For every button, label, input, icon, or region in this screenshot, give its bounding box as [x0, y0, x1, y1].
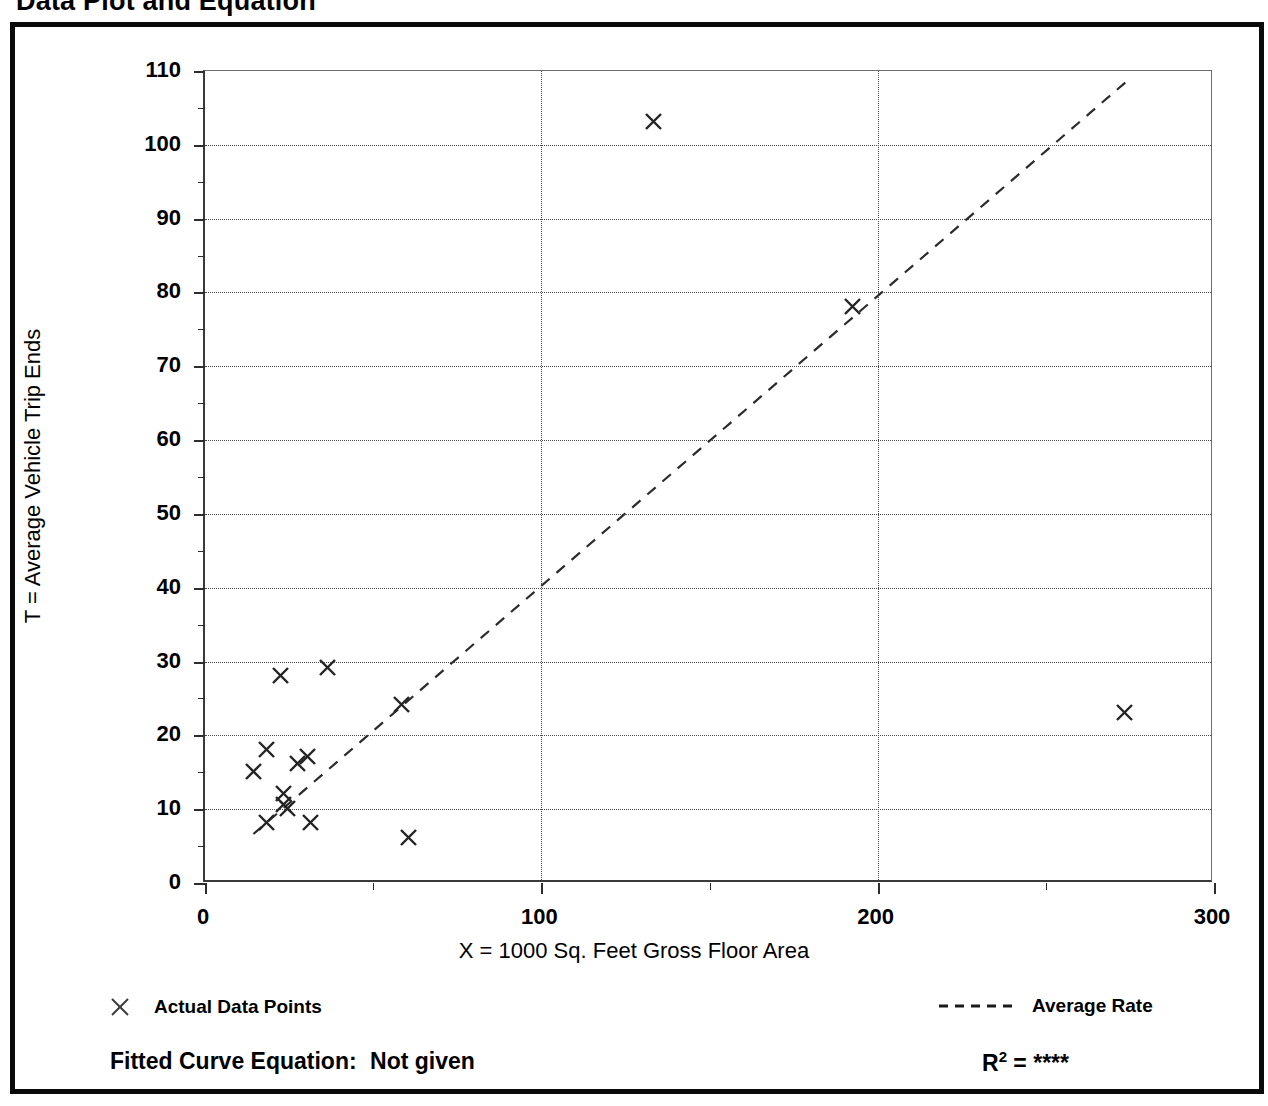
y-axis-tick-label: 20: [0, 721, 181, 747]
average-rate-trendline: [203, 70, 1212, 882]
r-squared-value: ****: [1033, 1050, 1069, 1076]
y-axis-tick-label: 10: [0, 795, 181, 821]
x-axis-tick-major: [1214, 883, 1216, 894]
data-point-marker: [257, 740, 276, 759]
data-point-marker: [244, 762, 263, 781]
legend-label-actual-data-points: Actual Data Points: [154, 996, 322, 1018]
data-point-marker: [298, 747, 317, 766]
y-axis-tick-label: 0: [0, 869, 181, 895]
y-axis-tick-label: 110: [0, 57, 181, 83]
r-squared-statistic: R2 = ****: [982, 1048, 1069, 1077]
legend-item-average-rate: Average Rate: [938, 995, 1153, 1017]
data-point-marker: [257, 813, 276, 832]
x-axis-tick-minor: [710, 883, 711, 890]
page-title: Data Plot and Equation: [16, 0, 316, 17]
page-root: Data Plot and Equation 01020304050607080…: [0, 0, 1268, 1106]
r-squared-exponent: 2: [999, 1048, 1007, 1065]
fitted-curve-equation-label: Fitted Curve Equation:: [110, 1048, 357, 1074]
x-axis-tick-major: [878, 883, 880, 894]
x-marker-icon: [108, 995, 132, 1019]
y-axis-tick-label: 90: [0, 205, 181, 231]
data-point-marker: [318, 658, 337, 677]
data-point-marker: [392, 695, 411, 714]
r-squared-equals: =: [1013, 1050, 1026, 1076]
chart-legend: Actual Data Points Average Rate: [0, 995, 1268, 1025]
dashed-line-icon: [938, 999, 1014, 1013]
y-axis-tick-label: 30: [0, 648, 181, 674]
x-axis-tick-major: [205, 883, 207, 894]
x-axis-tick-major: [541, 883, 543, 894]
x-axis-tick-minor: [373, 883, 374, 890]
x-axis-tick-minor: [1046, 883, 1047, 890]
data-point-marker: [271, 666, 290, 685]
y-axis-tick-label: 80: [0, 278, 181, 304]
data-point-marker: [278, 799, 297, 818]
y-axis-tick-major: [194, 883, 205, 885]
fitted-curve-equation: Fitted Curve Equation: Not given: [110, 1048, 475, 1075]
x-axis-tick-label: 300: [1194, 904, 1231, 930]
y-axis-tick-label: 100: [0, 131, 181, 157]
data-point-marker: [1115, 703, 1134, 722]
data-point-marker: [843, 297, 862, 316]
legend-label-average-rate: Average Rate: [1032, 995, 1153, 1017]
data-point-marker: [399, 828, 418, 847]
data-point-marker: [301, 813, 320, 832]
x-axis-title: X = 1000 Sq. Feet Gross Floor Area: [0, 938, 1268, 964]
y-axis-title: T = Average Vehicle Trip Ends: [20, 329, 46, 624]
legend-item-actual-data-points: Actual Data Points: [108, 995, 322, 1019]
x-axis-tick-label: 200: [857, 904, 894, 930]
data-point-marker: [644, 112, 663, 131]
chart-footer: Fitted Curve Equation: Not given R2 = **…: [0, 1048, 1268, 1088]
x-axis-tick-label: 0: [197, 904, 209, 930]
r-squared-label: R: [982, 1050, 999, 1076]
fitted-curve-equation-value: Not given: [370, 1048, 475, 1074]
x-axis-tick-label: 100: [521, 904, 558, 930]
